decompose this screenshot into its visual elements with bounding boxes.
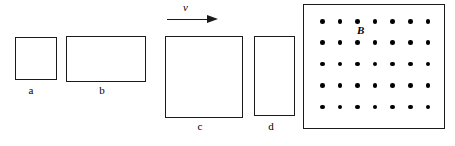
field-dot: [426, 62, 431, 67]
magnetic-field-label: B: [357, 24, 364, 36]
plate-b: [66, 36, 146, 82]
field-dot: [390, 40, 395, 45]
field-dot: [426, 19, 431, 24]
field-dot: [338, 83, 343, 88]
field-dot: [408, 62, 413, 67]
plate-label-d: d: [261, 120, 281, 132]
field-dot: [408, 105, 413, 110]
velocity-label: v: [183, 1, 188, 13]
field-dot: [390, 105, 395, 110]
plate-label-a: a: [21, 84, 41, 96]
field-dot: [390, 19, 395, 24]
physics-figure: abcd v B: [0, 0, 455, 146]
plate-c: [165, 36, 243, 118]
field-dot: [408, 40, 413, 45]
field-dot: [390, 83, 395, 88]
field-dot: [373, 19, 378, 24]
field-dot: [373, 83, 378, 88]
field-dot: [320, 19, 325, 24]
field-dot: [426, 83, 431, 88]
velocity-arrow-icon: [167, 14, 219, 26]
field-dot: [320, 62, 325, 67]
field-dot-grid: [304, 5, 446, 130]
field-dot: [355, 40, 360, 45]
arrow-shaft: [167, 19, 211, 20]
arrow-head: [207, 15, 218, 23]
field-dot: [426, 105, 431, 110]
plate-label-c: c: [190, 120, 210, 132]
field-dot: [320, 105, 325, 110]
plate-a: [15, 37, 57, 80]
field-dot: [338, 62, 343, 67]
field-dot: [426, 40, 431, 45]
field-dot: [355, 83, 360, 88]
field-dot: [408, 19, 413, 24]
field-dot: [355, 105, 360, 110]
field-dot: [355, 19, 360, 24]
field-dot: [338, 40, 343, 45]
field-dot: [338, 105, 343, 110]
field-dot: [373, 40, 378, 45]
field-dot: [408, 83, 413, 88]
field-dot: [355, 62, 360, 67]
plate-label-b: b: [92, 84, 112, 96]
field-dot: [338, 19, 343, 24]
field-dot: [373, 62, 378, 67]
magnetic-field-region: [303, 4, 445, 129]
field-dot: [373, 105, 378, 110]
field-dot: [320, 40, 325, 45]
field-dot: [390, 62, 395, 67]
plate-d: [254, 36, 295, 116]
field-dot: [320, 83, 325, 88]
